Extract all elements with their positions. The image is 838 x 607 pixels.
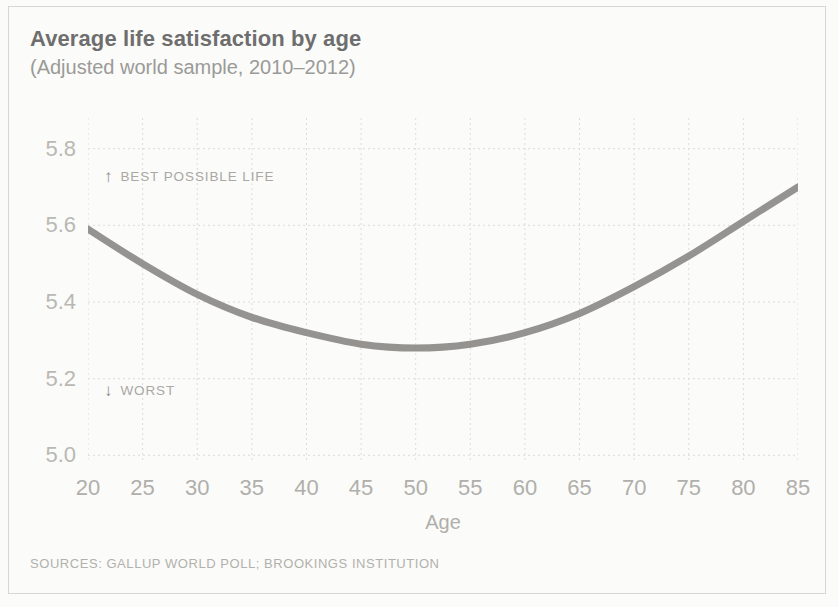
- chart-title: Average life satisfaction by age: [30, 26, 630, 52]
- x-tick-label: 85: [786, 475, 810, 501]
- title-block: Average life satisfaction by age (Adjust…: [30, 26, 630, 80]
- chart-figure: Average life satisfaction by age (Adjust…: [0, 0, 838, 607]
- y-tick-label: 5.0: [45, 442, 76, 468]
- x-tick-label: 50: [403, 475, 427, 501]
- x-axis-label: Age: [425, 511, 461, 534]
- chart-subtitle: (Adjusted world sample, 2010–2012): [30, 54, 630, 80]
- x-tick-label: 65: [567, 475, 591, 501]
- x-tick-label: 25: [130, 475, 154, 501]
- x-tick-label: 35: [240, 475, 264, 501]
- arrow-up-icon: ↑: [104, 168, 113, 185]
- annotation-worst-label: WORST: [120, 383, 175, 398]
- plot-area: 5.05.25.45.65.8 202530354045505560657075…: [88, 118, 798, 463]
- x-tick-label: 60: [513, 475, 537, 501]
- x-tick-label: 40: [294, 475, 318, 501]
- plot-wrapper: 5.05.25.45.65.8 202530354045505560657075…: [88, 118, 798, 463]
- annotation-best-possible-life: ↑ BEST POSSIBLE LIFE: [104, 168, 274, 185]
- annotation-worst: ↓ WORST: [104, 382, 175, 399]
- y-tick-label: 5.4: [45, 289, 76, 315]
- x-tick-label: 55: [458, 475, 482, 501]
- annotation-best-label: BEST POSSIBLE LIFE: [120, 169, 274, 184]
- x-tick-label: 80: [731, 475, 755, 501]
- y-tick-label: 5.2: [45, 366, 76, 392]
- x-tick-label: 70: [622, 475, 646, 501]
- x-tick-label: 45: [349, 475, 373, 501]
- sources-note: SOURCES: GALLUP WORLD POLL; BROOKINGS IN…: [30, 556, 440, 571]
- arrow-down-icon: ↓: [104, 382, 113, 399]
- x-tick-label: 20: [76, 475, 100, 501]
- y-tick-label: 5.6: [45, 212, 76, 238]
- x-tick-label: 75: [677, 475, 701, 501]
- x-tick-label: 30: [185, 475, 209, 501]
- y-tick-label: 5.8: [45, 136, 76, 162]
